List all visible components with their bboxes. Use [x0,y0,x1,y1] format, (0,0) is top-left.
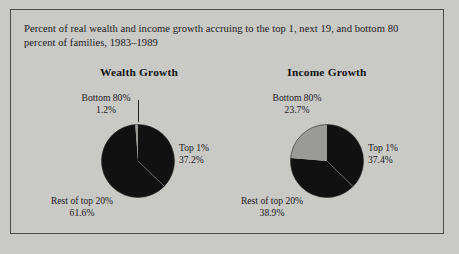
pie-chart-income-growth-svg [289,123,365,199]
pie-label-wealth-top1-name: Top 1% [179,142,245,154]
figure-caption: Percent of real wealth and income growth… [24,22,432,49]
pie-label-wealth-rest20-value: 61.6% [34,207,130,219]
pie-label-income-top1-name: Top 1% [368,142,434,154]
pie-label-wealth-bottom80-value: 1.2% [69,104,143,116]
pie-label-wealth-bottom80: Bottom 80% 1.2% [69,92,143,115]
pie-label-wealth-rest20-name: Rest of top 20% [34,195,130,207]
figure-frame: Percent of real wealth and income growth… [10,9,444,234]
pie-label-income-rest20-name: Rest of top 20% [224,195,320,207]
pie-chart-wealth-growth-svg [100,123,176,199]
pie-label-wealth-top1-value: 37.2% [179,154,245,166]
pie-chart-wealth-growth [100,123,176,199]
pie-label-income-bottom80: Bottom 80% 23.7% [260,92,334,115]
panel-heading-wealth-growth: Wealth Growth [83,66,195,78]
pie-label-income-rest20: Rest of top 20% 38.9% [224,195,320,218]
pie-label-wealth-bottom80-name: Bottom 80% [69,92,143,104]
pie-label-wealth-top1: Top 1% 37.2% [179,142,245,165]
pie-label-income-bottom80-name: Bottom 80% [260,92,334,104]
pie-label-wealth-rest20: Rest of top 20% 61.6% [34,195,130,218]
pie-slice-income-bottom80 [291,125,327,161]
panel-heading-income-growth: Income Growth [271,66,383,78]
pie-label-income-top1: Top 1% 37.4% [368,142,434,165]
pie-label-income-top1-value: 37.4% [368,154,434,166]
pie-label-income-bottom80-value: 23.7% [260,104,334,116]
pie-chart-income-growth [289,123,365,199]
pie-label-income-rest20-value: 38.9% [224,207,320,219]
